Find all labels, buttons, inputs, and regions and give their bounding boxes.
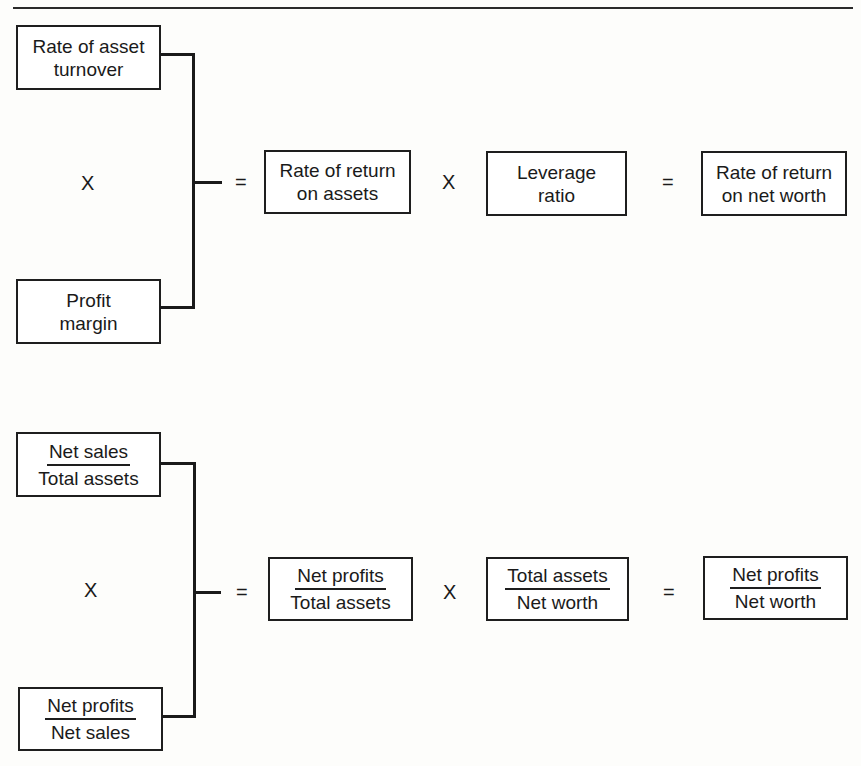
header-rule [13, 7, 853, 9]
equals-sign: = [235, 172, 247, 192]
numerator: Net profits [295, 564, 386, 590]
equals-sign: = [662, 172, 674, 192]
box-label-line1: Profit [66, 289, 110, 312]
bracket-top-arm [160, 462, 196, 465]
fraction: Net profits Net worth [730, 563, 821, 613]
net-profits-over-total-assets-box: Net profits Total assets [268, 557, 413, 621]
multiply-sign: X [84, 580, 97, 600]
bracket-vertical [193, 462, 196, 718]
denominator: Total assets [38, 466, 138, 490]
multiply-sign: X [442, 172, 455, 192]
multiply-sign: X [81, 173, 94, 193]
bracket-bottom-arm [162, 715, 196, 718]
fraction: Net profits Net sales [45, 694, 136, 744]
bracket-bottom-arm [160, 306, 195, 309]
denominator: Net worth [735, 589, 816, 613]
box-label-line1: Rate of asset [33, 35, 145, 58]
bracket-output-arm [195, 591, 221, 594]
multiply-sign: X [443, 582, 456, 602]
denominator: Total assets [290, 590, 390, 614]
net-sales-over-total-assets-box: Net sales Total assets [16, 432, 161, 497]
total-assets-over-net-worth-box: Total assets Net worth [486, 557, 629, 621]
box-label-line2: ratio [538, 184, 575, 207]
bracket-top-arm [160, 53, 195, 56]
equals-sign: = [663, 582, 675, 602]
fraction: Net profits Total assets [290, 564, 390, 614]
box-label-line1: Rate of return [279, 159, 395, 182]
box-label-line2: margin [59, 312, 117, 335]
numerator: Total assets [505, 564, 609, 590]
box-label-line1: Rate of return [716, 161, 832, 184]
return-on-assets-box: Rate of return on assets [264, 150, 411, 214]
numerator: Net profits [730, 563, 821, 589]
net-profits-over-net-sales-box: Net profits Net sales [18, 687, 163, 751]
net-profits-over-net-worth-box: Net profits Net worth [703, 556, 848, 620]
fraction: Total assets Net worth [505, 564, 609, 614]
box-label-line2: turnover [54, 58, 124, 81]
fraction: Net sales Total assets [38, 440, 138, 490]
denominator: Net worth [517, 590, 598, 614]
denominator: Net sales [51, 720, 130, 744]
numerator: Net sales [47, 440, 130, 466]
equals-sign: = [236, 582, 248, 602]
asset-turnover-box: Rate of asset turnover [16, 25, 161, 90]
return-on-net-worth-box: Rate of return on net worth [701, 151, 847, 216]
box-label-line2: on assets [297, 182, 378, 205]
bracket-output-arm [194, 181, 222, 184]
box-label-line1: Leverage [517, 161, 596, 184]
profit-margin-box: Profit margin [16, 279, 161, 344]
leverage-ratio-box: Leverage ratio [486, 151, 627, 216]
numerator: Net profits [45, 694, 136, 720]
box-label-line2: on net worth [722, 184, 827, 207]
